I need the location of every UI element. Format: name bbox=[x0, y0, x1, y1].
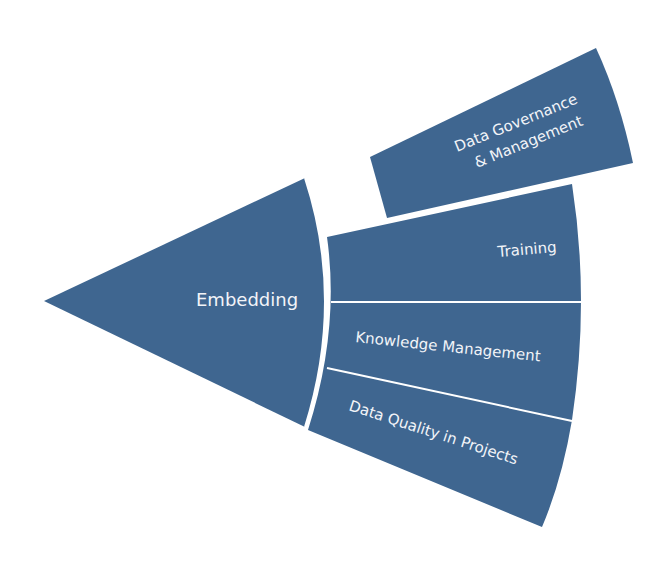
segment-embedding: Embedding bbox=[44, 178, 325, 427]
segment-embedding-label: Embedding bbox=[196, 289, 298, 310]
outer-ring: Training Knowledge Management Data Quali… bbox=[308, 184, 585, 527]
segment-data-governance: Data Governance & Management bbox=[370, 48, 633, 218]
embedding-diagram: Data Governance & Management Training Kn… bbox=[0, 0, 663, 568]
